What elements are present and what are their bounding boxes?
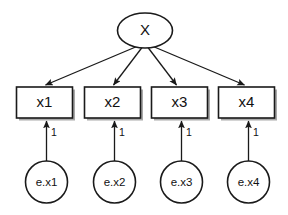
error-path-label-x2: 1	[119, 126, 125, 138]
error-nodes-group: e.x1e.x2e.x3e.x4	[26, 161, 270, 203]
observed-nodes-group: x1x2x3x4	[17, 87, 278, 121]
edge-labels-group: 1111	[51, 126, 259, 138]
latent-node-group: X	[118, 13, 173, 48]
observed-label-x2: x2	[105, 93, 121, 110]
error-label-e.x1: e.x1	[36, 176, 58, 188]
error-path-label-x1: 1	[51, 126, 57, 138]
loading-path-x2[interactable]	[114, 48, 143, 86]
error-label-e.x2: e.x2	[104, 176, 126, 188]
error-label-e.x3: e.x3	[171, 176, 193, 188]
error-path-label-x4: 1	[253, 126, 259, 138]
observed-label-x4: x4	[239, 93, 255, 110]
error-paths-group	[47, 121, 249, 161]
observed-label-x3: x3	[172, 93, 188, 110]
loading-path-x1[interactable]	[46, 46, 139, 85]
observed-label-x1: x1	[37, 93, 53, 110]
diagram-canvas: x1x2x3x4 e.x1e.x2e.x3e.x4 X 1111	[0, 0, 288, 215]
latent-label-X: X	[140, 21, 150, 38]
error-label-e.x4: e.x4	[238, 176, 260, 188]
error-path-label-x3: 1	[186, 126, 192, 138]
sem-path-diagram: x1x2x3x4 e.x1e.x2e.x3e.x4 X 1111	[0, 0, 288, 215]
loading-path-x3[interactable]	[148, 48, 177, 86]
loading-path-x4[interactable]	[152, 46, 245, 85]
loading-paths-group	[46, 46, 245, 85]
